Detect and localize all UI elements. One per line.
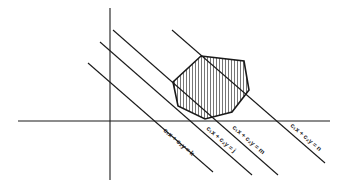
lp-diagram: c₁x + c₂y = kc₁x + c₂y = jc₁x + c₂y = mc… [0, 0, 344, 188]
iso-label-m: c₁x + c₂y = m [231, 123, 267, 156]
iso-label-n: c₁x + c₂y = n [289, 121, 324, 153]
iso-label-k: c₁x + c₂y = k [162, 126, 197, 158]
iso-line-m [113, 30, 278, 175]
